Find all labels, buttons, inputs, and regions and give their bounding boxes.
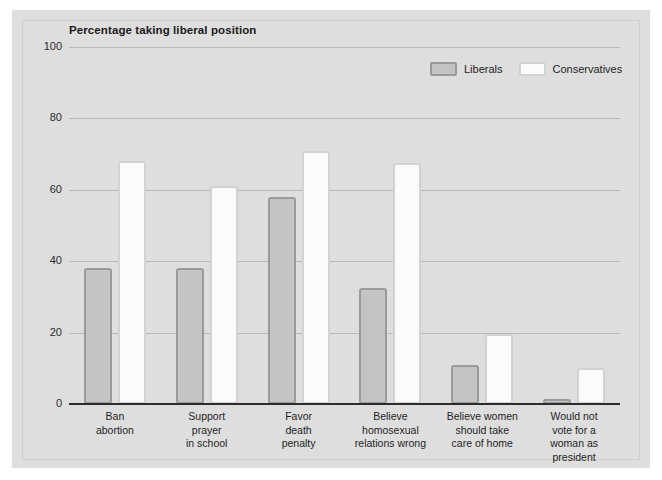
x-axis-category-label: Would not vote for a woman as president: [528, 410, 620, 464]
x-axis-category-label: Believe homosexual relations wrong: [345, 410, 437, 451]
bar-conservatives[interactable]: [577, 368, 605, 404]
y-tick-label: 0: [56, 397, 62, 409]
bar-liberals[interactable]: [268, 197, 296, 404]
bar-body: [210, 186, 238, 404]
y-tick-label: 40: [50, 254, 62, 266]
chart-title: Percentage taking liberal position: [69, 24, 256, 36]
bar-group: [268, 47, 330, 404]
bar-liberals[interactable]: [84, 268, 112, 404]
gridline: [69, 333, 620, 334]
bar-group: [543, 47, 605, 404]
bar-body: [451, 365, 479, 404]
y-axis-tick-labels: 020406080100: [20, 0, 62, 480]
bar-conservatives[interactable]: [118, 161, 146, 404]
bar-body: [176, 268, 204, 404]
bar-body: [84, 268, 112, 404]
bar-body: [359, 288, 387, 404]
bar-liberals[interactable]: [451, 365, 479, 404]
x-axis-category-label: Support prayer in school: [161, 410, 253, 451]
bar-conservatives[interactable]: [393, 163, 421, 404]
chart-figure: Percentage taking liberal position Liber…: [0, 0, 662, 480]
y-tick-label: 80: [50, 111, 62, 123]
bar-body: [485, 334, 513, 404]
bar-conservatives[interactable]: [210, 186, 238, 404]
y-tick-label: 20: [50, 326, 62, 338]
x-axis-category-label: Favor death penalty: [253, 410, 345, 451]
gridline: [69, 118, 620, 119]
gridline: [69, 261, 620, 262]
bar-group: [451, 47, 513, 404]
bar-body: [393, 163, 421, 404]
y-tick-label: 60: [50, 183, 62, 195]
gridline: [69, 47, 620, 48]
bar-body: [577, 368, 605, 404]
bar-conservatives[interactable]: [302, 151, 330, 404]
plot-area: [69, 47, 620, 404]
y-tick-label: 100: [44, 40, 62, 52]
bar-group: [359, 47, 421, 404]
bar-body: [302, 151, 330, 404]
bar-group: [84, 47, 146, 404]
bar-body: [118, 161, 146, 404]
x-axis-category-label: Believe women should take care of home: [436, 410, 528, 451]
bar-body: [268, 197, 296, 404]
bar-group: [176, 47, 238, 404]
gridline: [69, 190, 620, 191]
bar-conservatives[interactable]: [485, 334, 513, 404]
x-axis-category-label: Ban abortion: [69, 410, 161, 437]
x-axis-line: [69, 403, 620, 405]
bar-liberals[interactable]: [176, 268, 204, 404]
bar-liberals[interactable]: [359, 288, 387, 404]
